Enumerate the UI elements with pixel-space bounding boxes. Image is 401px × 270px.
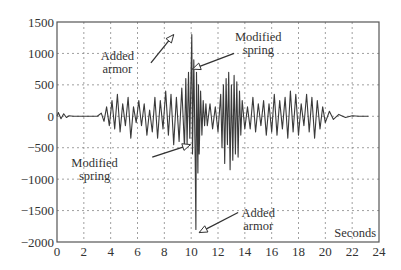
- y-tick-label: 1000: [28, 46, 54, 61]
- y-tick-label: 0: [48, 109, 55, 124]
- annotation-text: spring: [79, 169, 111, 183]
- y-tick-label: −1500: [21, 203, 54, 218]
- chart: 150010005000−500−1000−1500−2000 02468101…: [0, 0, 401, 270]
- x-tick-label: 14: [238, 244, 252, 259]
- annotation-text: Modified: [71, 156, 118, 170]
- annotation-text: armor: [243, 219, 274, 233]
- x-axis-ticks: 024681012141618202224: [54, 244, 386, 259]
- x-tick-label: 10: [185, 244, 198, 259]
- x-tick-label: 12: [212, 244, 225, 259]
- x-tick-label: 22: [346, 244, 359, 259]
- annotation: Modifiedspring: [193, 30, 283, 70]
- annotation-text: Added: [242, 206, 276, 220]
- annotation: Addedarmor: [101, 35, 174, 76]
- y-tick-label: 500: [35, 77, 55, 92]
- x-tick-label: 8: [161, 244, 168, 259]
- x-tick-label: 4: [107, 244, 114, 259]
- annotation-text: Modified: [235, 30, 282, 44]
- annotation: Addedarmor: [199, 206, 275, 233]
- x-axis-label: Seconds: [334, 226, 376, 240]
- x-tick-label: 0: [54, 244, 61, 259]
- x-tick-label: 2: [81, 244, 88, 259]
- y-axis-ticks: 150010005000−500−1000−1500−2000: [21, 15, 54, 250]
- x-tick-label: 20: [319, 244, 332, 259]
- arrowhead-icon: [182, 144, 191, 151]
- x-tick-label: 18: [292, 244, 305, 259]
- annotation: Modifiedspring: [71, 144, 190, 183]
- y-tick-label: −500: [27, 140, 54, 155]
- y-tick-label: −2000: [21, 235, 54, 250]
- annotation-text: Added: [101, 49, 135, 63]
- x-tick-label: 16: [265, 244, 279, 259]
- annotation-text: armor: [102, 62, 133, 76]
- annotation-text: spring: [243, 43, 275, 57]
- y-tick-label: 1500: [28, 15, 54, 30]
- annotations: AddedarmorModifiedspringModifiedspringAd…: [71, 30, 282, 233]
- x-tick-label: 6: [134, 244, 141, 259]
- x-tick-label: 24: [373, 244, 387, 259]
- arrowhead-icon: [199, 226, 208, 233]
- y-tick-label: −1000: [21, 172, 54, 187]
